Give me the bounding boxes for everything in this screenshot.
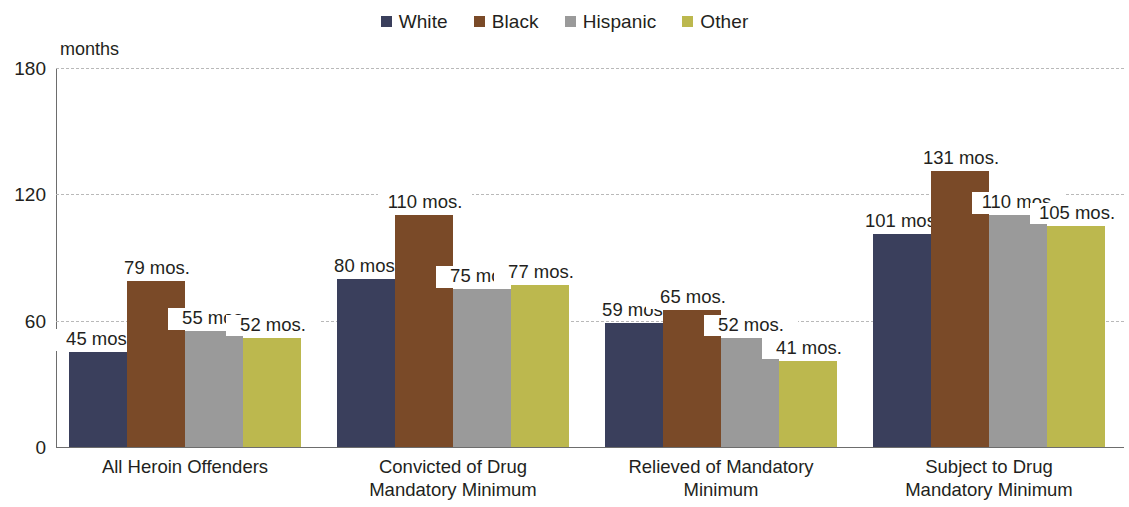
bar-white-group3[interactable] <box>605 323 663 447</box>
legend-item-black[interactable]: Black <box>474 12 539 31</box>
bar-other-group1[interactable] <box>243 338 301 447</box>
bar-value-label: 77 mos. <box>494 262 588 284</box>
bar-value-label: 41 mos. <box>762 338 856 360</box>
category-label-line: All Heroin Offenders <box>35 455 335 478</box>
bar-value-label: 131 mos. <box>914 148 1008 170</box>
legend-swatch-icon <box>381 16 392 27</box>
legend-swatch-icon <box>474 16 485 27</box>
y-axis-tick-180: 180 <box>0 59 46 78</box>
y-axis-tick-60: 60 <box>0 312 46 331</box>
category-label-3: Relieved of MandatoryMinimum <box>571 455 871 502</box>
bar-black-group2[interactable] <box>395 215 453 447</box>
category-label-line: Convicted of Drug <box>303 455 603 478</box>
y-axis-title: months <box>60 40 119 58</box>
category-label-line: Relieved of Mandatory <box>571 455 871 478</box>
bar-white-group1[interactable] <box>69 352 127 447</box>
legend-item-other[interactable]: Other <box>682 12 748 31</box>
legend-item-white[interactable]: White <box>381 12 448 31</box>
x-axis-line <box>56 447 1124 448</box>
legend-item-label: Hispanic <box>583 12 657 31</box>
category-label-line: Minimum <box>571 478 871 501</box>
category-label-line: Subject to Drug <box>839 455 1129 478</box>
bar-value-label: 79 mos. <box>110 258 204 280</box>
category-label-2: Convicted of DrugMandatory Minimum <box>303 455 603 502</box>
bar-value-label: 65 mos. <box>646 287 740 309</box>
bar-value-label: 110 mos. <box>378 192 472 214</box>
legend-item-hispanic[interactable]: Hispanic <box>565 12 657 31</box>
bar-hispanic-group1[interactable] <box>185 331 243 447</box>
legend-item-label: White <box>399 12 448 31</box>
bar-white-group4[interactable] <box>873 234 931 447</box>
bar-white-group2[interactable] <box>337 279 395 447</box>
gridline-180 <box>56 68 1124 69</box>
grouped-bar-chart: WhiteBlackHispanicOther months 060120180… <box>0 0 1129 507</box>
category-label-4: Subject to DrugMandatory Minimum <box>839 455 1129 502</box>
bar-value-label: 52 mos. <box>226 315 320 337</box>
bar-other-group2[interactable] <box>511 285 569 447</box>
legend-item-label: Other <box>700 12 748 31</box>
bar-other-group3[interactable] <box>779 361 837 447</box>
bar-other-group4[interactable] <box>1047 226 1105 447</box>
bar-hispanic-group4[interactable] <box>989 215 1047 447</box>
chart-legend: WhiteBlackHispanicOther <box>0 8 1129 34</box>
category-label-1: All Heroin Offenders <box>35 455 335 478</box>
legend-item-label: Black <box>492 12 539 31</box>
bar-value-label: 105 mos. <box>1030 203 1124 225</box>
bar-hispanic-group2[interactable] <box>453 289 511 447</box>
category-label-line: Mandatory Minimum <box>303 478 603 501</box>
category-label-line: Mandatory Minimum <box>839 478 1129 501</box>
legend-swatch-icon <box>682 16 693 27</box>
legend-swatch-icon <box>565 16 576 27</box>
bar-black-group1[interactable] <box>127 281 185 447</box>
bar-value-label: 52 mos. <box>704 315 798 337</box>
y-axis-tick-120: 120 <box>0 185 46 204</box>
plot-area: 45 mos.80 mos.59 mos.101 mos.79 mos.110 … <box>56 68 1124 447</box>
